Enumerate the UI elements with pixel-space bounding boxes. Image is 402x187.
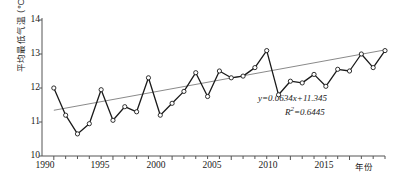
chart-container: 平均最低气温 (℃) 14 13 12 11 10 1990 1995 2000… [0, 0, 402, 187]
data-point-2007 [253, 66, 257, 70]
data-point-2015 [347, 69, 351, 73]
data-point-1997 [135, 110, 139, 114]
data-point-1991 [64, 113, 68, 117]
data-point-2013 [324, 84, 328, 88]
data-point-1995 [111, 118, 115, 122]
data-point-1998 [146, 76, 150, 80]
axes-group [42, 18, 385, 156]
data-point-2001 [182, 89, 186, 93]
data-point-2014 [336, 67, 340, 71]
series-line [54, 51, 385, 134]
data-point-2003 [205, 94, 209, 98]
data-point-2010 [288, 79, 292, 83]
data-point-2018 [383, 49, 387, 53]
data-point-1993 [87, 122, 91, 126]
data-point-1999 [158, 113, 162, 117]
x-tick-marks [54, 156, 385, 160]
data-point-2009 [276, 93, 280, 97]
data-point-1990 [52, 86, 56, 90]
plot-area [0, 0, 402, 187]
data-point-2017 [371, 66, 375, 70]
data-point-2000 [170, 101, 174, 105]
data-point-2016 [359, 52, 363, 56]
data-point-2004 [217, 69, 221, 73]
data-point-2011 [300, 81, 304, 85]
trend-line [54, 50, 385, 110]
data-point-1994 [99, 88, 103, 92]
data-point-1992 [75, 132, 79, 136]
data-point-2005 [229, 76, 233, 80]
data-point-2012 [312, 72, 316, 76]
data-point-1996 [123, 105, 127, 109]
data-point-2008 [265, 49, 269, 53]
data-point-2002 [194, 71, 198, 75]
data-point-2006 [241, 74, 245, 78]
